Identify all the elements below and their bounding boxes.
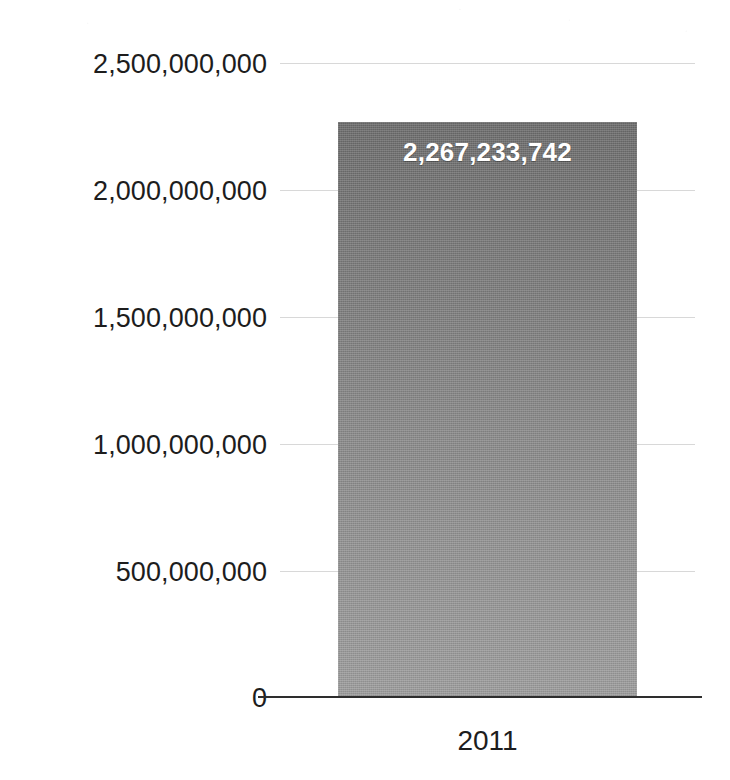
bar-2011[interactable] — [338, 122, 637, 697]
bar-texture — [338, 122, 637, 697]
plot-area — [0, 0, 730, 780]
x-axis-category-label-2011: 2011 — [338, 727, 637, 755]
x-axis-line — [258, 696, 702, 698]
bar-value-label-2011: 2,267,233,742 — [338, 137, 637, 168]
bar-chart: 2,500,000,000 2,000,000,000 1,500,000,00… — [0, 0, 730, 780]
